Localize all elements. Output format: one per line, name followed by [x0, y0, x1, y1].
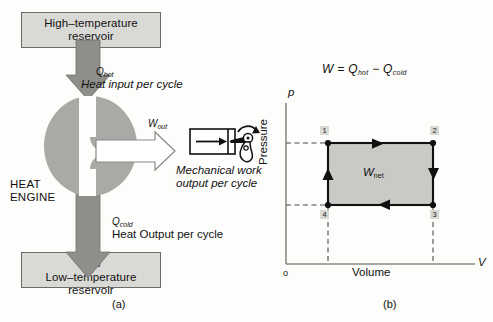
wnet-symbol: W — [363, 166, 374, 178]
y-axis-symbol: p — [288, 86, 294, 98]
y-axis-label: Pressure — [257, 105, 269, 165]
figure-root: High–temperature reservoir Thot Tcold Lo… — [0, 0, 493, 322]
wnet-subscript: net — [374, 172, 384, 179]
state-label-4: 4 — [320, 210, 329, 219]
wnet-area-label: Wnet — [363, 166, 384, 178]
state-label-1: 1 — [320, 126, 329, 135]
origin-label: o — [283, 268, 288, 278]
state-point-2 — [430, 140, 436, 146]
state-label-2: 2 — [430, 126, 439, 135]
state-point-4 — [325, 202, 331, 208]
state-point-1 — [325, 140, 331, 146]
state-label-3: 3 — [430, 210, 439, 219]
pv-diagram-svg — [0, 0, 493, 322]
x-axis-label: Volume — [352, 266, 390, 278]
x-axis-symbol: V — [478, 256, 486, 268]
state-point-3 — [430, 202, 436, 208]
panel-b-caption: (b) — [383, 298, 396, 310]
